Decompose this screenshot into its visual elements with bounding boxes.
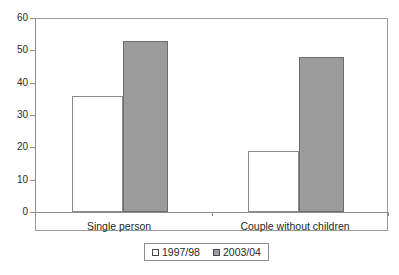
y-axis-tick-label: 10: [2, 175, 28, 185]
bar-series-b-group-1: [123, 41, 168, 212]
y-axis-tick-label: 60: [2, 13, 28, 23]
x-axis-tick: [35, 212, 36, 216]
y-axis-tick-label: 30: [2, 110, 28, 120]
bar-series-a-group-2: [248, 151, 299, 212]
y-axis-tick: [30, 18, 35, 19]
y-axis-tick-label: 50: [2, 45, 28, 55]
legend-label-series-a: 1997/98: [162, 246, 200, 258]
y-axis-tick: [30, 147, 35, 148]
legend-swatch-filled-square-icon: [213, 249, 220, 256]
chart-screenshot: 0102030405060 Single personCouple withou…: [0, 0, 399, 275]
x-axis-tick: [388, 212, 389, 216]
legend-swatch-hollow-square-icon: [152, 249, 159, 256]
y-axis-tick-label: 0: [2, 207, 28, 217]
x-axis-category-label: Couple without children: [240, 220, 349, 232]
y-axis-tick: [30, 115, 35, 116]
chart-legend: 1997/98 2003/04: [144, 243, 269, 261]
bar-series-b-group-2: [299, 57, 344, 212]
y-axis-tick: [30, 83, 35, 84]
y-axis-tick: [30, 180, 35, 181]
legend-item-series-b: 2003/04: [213, 246, 261, 258]
x-axis-tick: [212, 212, 213, 216]
x-axis-category-label: Single person: [87, 220, 151, 232]
bars-layer: [36, 18, 388, 212]
y-axis-tick-label: 20: [2, 142, 28, 152]
y-axis-tick: [30, 50, 35, 51]
legend-item-series-a: 1997/98: [152, 246, 200, 258]
y-axis-tick-label: 40: [2, 78, 28, 88]
bar-series-a-group-1: [72, 96, 123, 212]
legend-label-series-b: 2003/04: [223, 246, 261, 258]
